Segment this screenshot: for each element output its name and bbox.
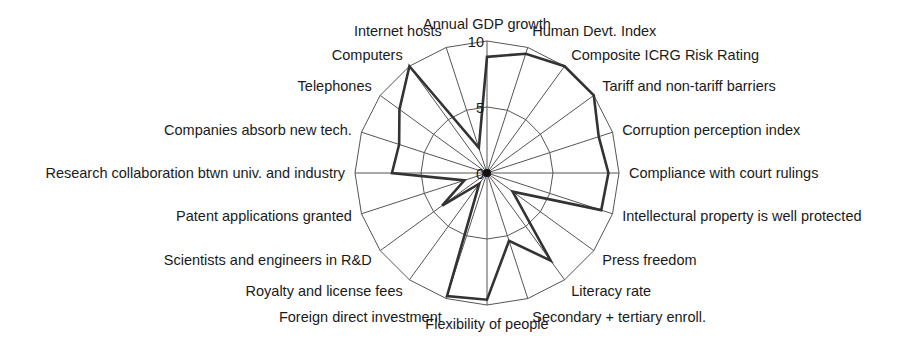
grid-spoke xyxy=(361,173,487,214)
axis-label: Intellectural property is well protected xyxy=(622,208,861,224)
axis-label: Telephones xyxy=(298,78,372,94)
grid-spoke xyxy=(409,66,487,173)
grid-spoke xyxy=(487,66,565,173)
axis-label: Scientists and engineers in R&D xyxy=(164,252,372,268)
radar-chart: Annual GDP growthHuman Devt. IndexCompos… xyxy=(0,0,912,355)
grid-spoke xyxy=(409,173,487,280)
series-polygon xyxy=(392,54,608,300)
axis-label: Press freedom xyxy=(602,252,696,268)
axis-label: Foreign direct investment xyxy=(279,309,442,325)
axis-labels: Annual GDP growthHuman Devt. IndexCompos… xyxy=(45,16,861,332)
axis-label: Companies absorb new tech. xyxy=(164,122,352,138)
axis-label: Secondary + tertiary enroll. xyxy=(532,309,706,325)
axis-label: Literacy rate xyxy=(571,283,651,299)
grid-spoke xyxy=(487,173,565,280)
grid-spoke xyxy=(487,47,528,173)
radar-series xyxy=(392,54,608,300)
grid-spoke xyxy=(361,132,487,173)
axis-label: Patent applications granted xyxy=(176,208,352,224)
axis-label: Corruption perception index xyxy=(622,122,801,138)
center-dot xyxy=(483,169,491,177)
axis-label: Flexibility of people xyxy=(425,316,548,332)
grid-spoke xyxy=(487,173,594,251)
axis-label: Composite ICRG Risk Rating xyxy=(571,47,759,63)
axis-label: Tariff and non-tariff barriers xyxy=(602,78,776,94)
grid-spoke xyxy=(487,95,594,173)
grid-spoke xyxy=(380,95,487,173)
axis-label: Compliance with court rulings xyxy=(629,165,818,181)
axis-label: Research collaboration btwn univ. and in… xyxy=(45,165,345,181)
axis-label: Royalty and license fees xyxy=(246,283,403,299)
axis-label: Internet hosts xyxy=(354,23,442,39)
tick-labels: 0510 xyxy=(468,34,484,182)
axis-label: Computers xyxy=(332,47,403,63)
tick-label: 5 xyxy=(476,100,484,116)
tick-label: 0 xyxy=(476,166,484,182)
grid-spoke xyxy=(487,132,613,173)
axis-label: Human Devt. Index xyxy=(532,23,657,39)
tick-label: 10 xyxy=(468,34,484,50)
